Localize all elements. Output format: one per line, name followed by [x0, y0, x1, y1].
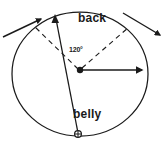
- belly-label: belly: [73, 107, 101, 121]
- tangent-arrow-right: [123, 13, 160, 35]
- back-label: back: [78, 11, 106, 25]
- diagram-canvas: back belly 120°: [0, 0, 166, 146]
- angle-label: 120°: [69, 46, 83, 53]
- dashed-ray-upper-right: [82, 27, 129, 68]
- center-point-dot-icon: [77, 67, 83, 73]
